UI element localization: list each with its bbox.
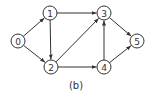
node-5: 5 (130, 34, 144, 48)
node-1: 1 (43, 6, 57, 20)
edge-4-to-5 (109, 46, 131, 63)
node-2: 2 (44, 60, 58, 74)
edge-3-to-5 (109, 18, 131, 37)
node-label: 4 (101, 63, 107, 73)
node-label: 2 (48, 63, 54, 73)
edge-layer (23, 13, 131, 67)
node-0: 0 (11, 34, 25, 48)
node-label: 0 (15, 37, 21, 47)
node-label: 3 (101, 9, 107, 19)
edge-1-to-2 (50, 20, 51, 60)
edge-0-to-2 (23, 45, 45, 62)
edge-2-to-3 (56, 18, 99, 62)
node-label: 5 (134, 37, 140, 47)
figure-caption: (b) (0, 80, 152, 91)
node-3: 3 (97, 6, 111, 20)
node-label: 1 (47, 9, 53, 19)
edge-0-to-1 (23, 18, 44, 36)
node-4: 4 (97, 60, 111, 74)
